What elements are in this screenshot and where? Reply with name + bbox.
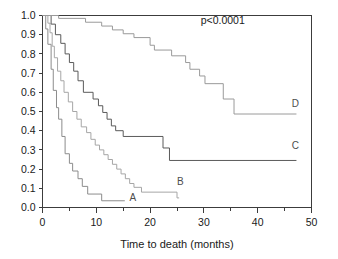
series-labels: ABCD (130, 98, 299, 203)
y-tick-label: 0.4 (21, 124, 36, 136)
survival-curve-d (43, 16, 297, 115)
y-axis-ticks (39, 16, 43, 208)
series-label-c: C (292, 140, 299, 151)
y-tick-label: 0.0 (21, 201, 36, 213)
survival-curve-a (43, 16, 125, 201)
survival-curves (43, 16, 297, 201)
x-tick-label: 50 (306, 216, 318, 228)
y-tick-label: 0.8 (21, 48, 36, 60)
x-tick-label: 40 (252, 216, 264, 228)
survival-curve-figure: 0.00.10.20.30.40.50.60.70.80.91.0 010203… (0, 0, 338, 259)
y-axis-tick-labels: 0.00.10.20.30.40.50.60.70.80.91.0 (21, 9, 36, 213)
y-tick-label: 0.3 (21, 144, 36, 156)
y-tick-label: 0.2 (21, 163, 36, 175)
series-label-a: A (130, 192, 137, 203)
x-tick-label: 20 (144, 216, 156, 228)
y-tick-label: 0.5 (21, 105, 36, 117)
kaplan-meier-chart: 0.00.10.20.30.40.50.60.70.80.91.0 010203… (0, 0, 338, 259)
y-tick-label: 0.1 (21, 182, 36, 194)
p-value-annotation: p<0.0001 (201, 14, 245, 26)
x-axis-ticks (43, 208, 312, 213)
x-tick-label: 10 (90, 216, 102, 228)
x-tick-label: 30 (198, 216, 210, 228)
y-tick-label: 0.9 (21, 28, 36, 40)
y-tick-label: 1.0 (21, 9, 36, 21)
series-label-d: D (292, 98, 299, 109)
y-tick-label: 0.7 (21, 67, 36, 79)
survival-curve-c (43, 16, 297, 161)
chart-annotations: p<0.0001 (201, 14, 245, 26)
x-tick-label: 0 (40, 216, 46, 228)
y-tick-label: 0.6 (21, 86, 36, 98)
x-axis-tick-labels: 01020304050 (40, 216, 318, 228)
x-axis-title: Time to death (months) (120, 238, 233, 250)
series-label-b: B (177, 176, 184, 187)
